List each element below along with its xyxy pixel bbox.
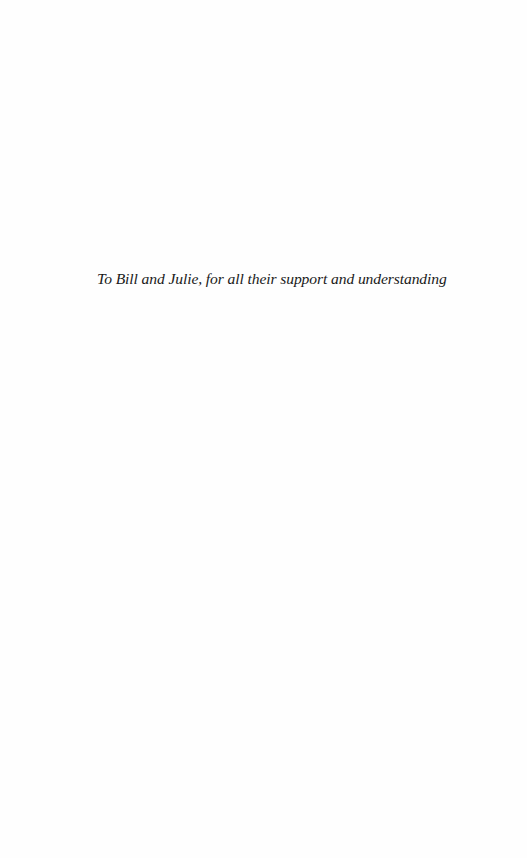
dedication-text: To Bill and Julie, for all their support…	[97, 269, 437, 289]
book-page: To Bill and Julie, for all their support…	[0, 0, 527, 858]
